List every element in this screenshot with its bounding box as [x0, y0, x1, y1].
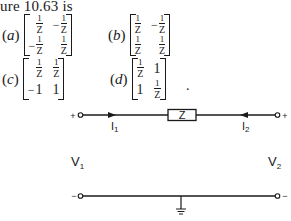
terminal-top-left-icon	[78, 113, 83, 118]
terminal-top-right-icon	[275, 113, 280, 118]
current-label-1: I1	[111, 120, 119, 134]
polarity-bottom-left: −	[71, 191, 76, 201]
two-port-circuit-diagram: Z + + − − I1 I2 V1 V2	[0, 0, 291, 221]
polarity-top-left: +	[70, 111, 75, 121]
ground-icon	[176, 196, 186, 214]
polarity-bottom-right: −	[282, 191, 287, 201]
voltage-label-2: V2	[268, 154, 282, 171]
impedance-label: Z	[179, 109, 186, 121]
voltage-label-1: V1	[71, 154, 85, 171]
current-arrow-left-icon	[240, 112, 248, 118]
current-label-2: I2	[242, 120, 250, 134]
polarity-top-right: +	[282, 111, 287, 121]
terminal-bottom-left-icon	[78, 194, 83, 199]
current-arrow-right-icon	[108, 112, 116, 118]
terminal-bottom-right-icon	[275, 194, 280, 199]
